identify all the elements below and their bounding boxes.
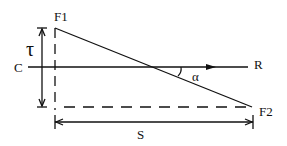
alpha-angle-arc bbox=[178, 67, 181, 76]
f1-label: F1 bbox=[54, 9, 68, 24]
c-label: C bbox=[14, 60, 23, 75]
r-label: R bbox=[254, 57, 263, 72]
f2-label: F2 bbox=[259, 104, 273, 119]
s-label: S bbox=[137, 127, 144, 142]
axis-arrow-icon bbox=[206, 64, 216, 70]
tau-label: τ bbox=[26, 38, 34, 60]
optics-diagram: F1 F2 C R τ α S bbox=[0, 0, 287, 146]
alpha-label: α bbox=[192, 69, 199, 84]
